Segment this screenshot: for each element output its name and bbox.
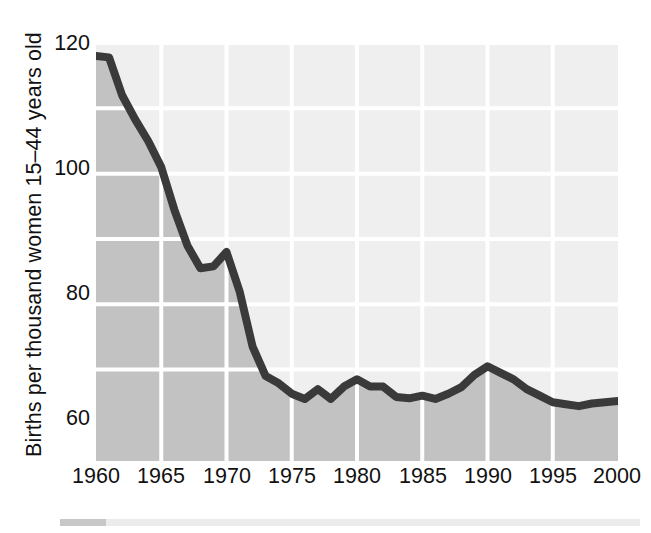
y-tick-80: 80 [36,281,90,306]
chart-canvas [96,43,618,461]
x-axis: 1960 1965 1970 1975 1980 1985 1990 1995 … [0,464,651,504]
x-tick-1995: 1995 [529,464,577,489]
footer-rule [60,519,640,526]
y-axis: Births per thousand women 15–44 years ol… [0,0,90,533]
x-tick-1980: 1980 [333,464,381,489]
x-tick-1990: 1990 [464,464,512,489]
x-tick-2000: 2000 [593,464,641,489]
x-tick-1965: 1965 [137,464,185,489]
y-tick-60: 60 [36,406,90,431]
plot-area [96,43,618,461]
x-tick-1985: 1985 [399,464,447,489]
x-tick-1960: 1960 [72,464,120,489]
x-tick-1975: 1975 [268,464,316,489]
fertility-rate-chart: Births per thousand women 15–44 years ol… [0,0,651,533]
y-tick-100: 100 [36,156,90,181]
y-axis-label: Births per thousand women 15–44 years ol… [22,25,47,465]
y-tick-120: 120 [36,31,90,56]
x-tick-1970: 1970 [203,464,251,489]
